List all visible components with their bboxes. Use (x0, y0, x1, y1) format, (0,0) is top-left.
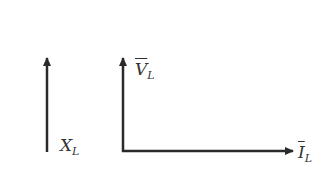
phasor-diagram (0, 0, 334, 169)
voltage-label: VL (135, 61, 155, 81)
current-label: IL (298, 144, 312, 164)
reactance-label: XL (60, 137, 79, 157)
